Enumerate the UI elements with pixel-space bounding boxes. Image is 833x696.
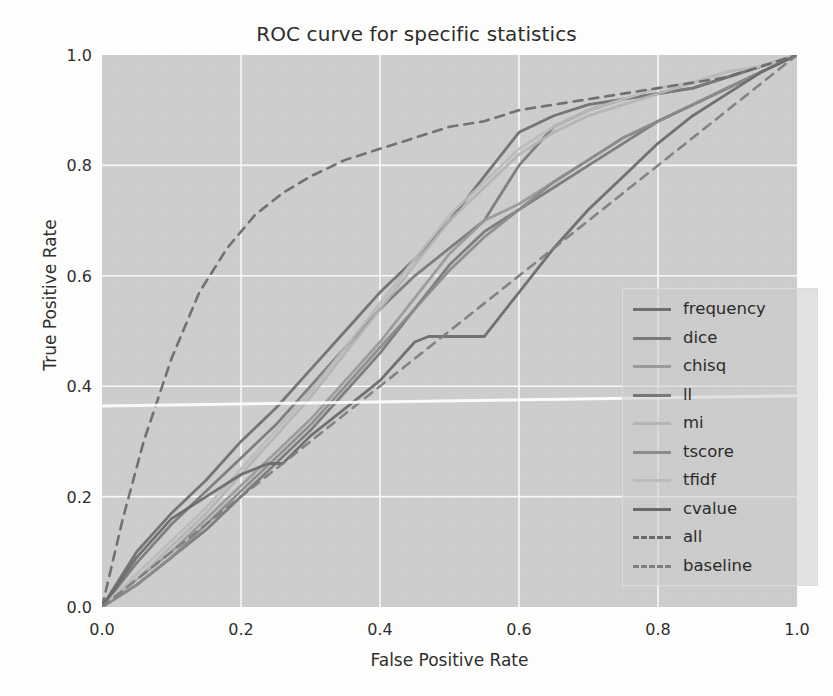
x-axis-label: False Positive Rate	[102, 650, 797, 670]
legend-item-tscore[interactable]: tscore	[631, 438, 809, 467]
x-tick-label: 0.0	[72, 620, 132, 639]
legend-label: chisq	[683, 358, 726, 375]
legend-item-mi[interactable]: mi	[631, 409, 809, 438]
x-tick-label: 0.4	[350, 620, 410, 639]
x-tick-label: 0.8	[628, 620, 688, 639]
legend-item-baseline[interactable]: baseline	[631, 552, 809, 581]
legend-label: all	[683, 529, 702, 546]
legend-label: dice	[683, 330, 717, 347]
legend-item-frequency[interactable]: frequency	[631, 295, 809, 324]
y-tick-label: 1.0	[32, 46, 92, 65]
legend-line-swatch-frequency	[631, 302, 673, 316]
legend-label: cvalue	[683, 501, 737, 518]
legend-line-swatch-tscore	[631, 445, 673, 459]
y-tick-label: 0.8	[32, 156, 92, 175]
legend-line-swatch-baseline	[631, 559, 673, 573]
roc-chart-figure: ROC curve for specific statistics True P…	[0, 0, 833, 696]
y-tick-label: 0.4	[32, 377, 92, 396]
legend-item-chisq[interactable]: chisq	[631, 352, 809, 381]
y-tick-label: 0.2	[32, 487, 92, 506]
legend-label: mi	[683, 415, 704, 432]
x-tick-label: 0.2	[211, 620, 271, 639]
y-tick-label: 0.6	[32, 266, 92, 285]
legend-item-all[interactable]: all	[631, 523, 809, 552]
legend-item-tfidf[interactable]: tfidf	[631, 466, 809, 495]
legend-line-swatch-cvalue	[631, 502, 673, 516]
legend-item-cvalue[interactable]: cvalue	[631, 495, 809, 524]
legend-label: tscore	[683, 444, 734, 461]
legend-line-swatch-ll	[631, 388, 673, 402]
legend-line-swatch-mi	[631, 416, 673, 430]
legend-item-dice[interactable]: dice	[631, 324, 809, 353]
legend-label: tfidf	[683, 472, 716, 489]
legend-item-ll[interactable]: ll	[631, 381, 809, 410]
chart-legend: frequencydicechisqllmitscoretfidfcvaluea…	[622, 288, 818, 586]
legend-label: frequency	[683, 301, 766, 318]
legend-line-swatch-tfidf	[631, 473, 673, 487]
legend-label: ll	[683, 387, 692, 404]
y-axis-tick-labels: 0.00.20.40.60.81.0	[24, 55, 92, 607]
chart-title: ROC curve for specific statistics	[0, 22, 833, 46]
x-tick-label: 1.0	[767, 620, 827, 639]
legend-line-swatch-chisq	[631, 359, 673, 373]
x-axis-tick-labels: 0.00.20.40.60.81.0	[102, 612, 797, 642]
legend-line-swatch-all	[631, 530, 673, 544]
y-tick-label: 0.0	[32, 598, 92, 617]
legend-label: baseline	[683, 558, 752, 575]
x-tick-label: 0.6	[489, 620, 549, 639]
legend-line-swatch-dice	[631, 331, 673, 345]
